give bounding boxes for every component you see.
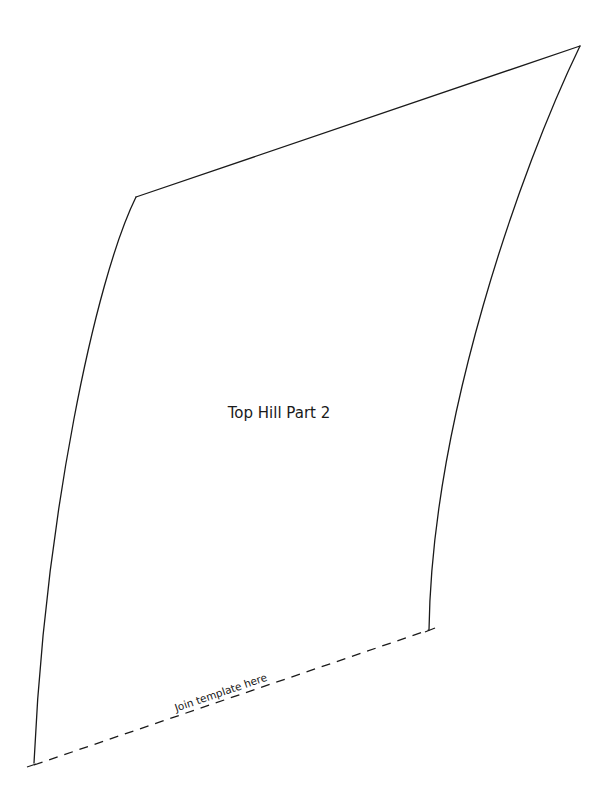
- template-diagram: Top Hill Part 2 Join template here: [0, 0, 608, 796]
- join-line: [34, 630, 429, 765]
- top-edge: [136, 46, 580, 197]
- right-end-tick: [425, 628, 435, 632]
- template-title: Top Hill Part 2: [227, 404, 331, 422]
- join-label: Join template here: [172, 671, 268, 714]
- right-edge: [429, 46, 580, 630]
- left-edge: [34, 197, 136, 763]
